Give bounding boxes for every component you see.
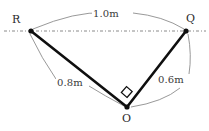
dimension-arc-RQ-right — [133, 13, 184, 29]
segment-RO — [31, 31, 127, 107]
vertex-dot-R — [28, 28, 33, 33]
geometry-figure: R Q O 1.0m 0.8m 0.6m — [0, 0, 209, 131]
figure-canvas — [0, 0, 209, 131]
dimension-arc-QO-upper — [188, 34, 190, 74]
dimension-label-RQ: 1.0m — [92, 9, 120, 19]
vertex-dot-Q — [183, 28, 188, 33]
dimension-label-RO: 0.8m — [56, 78, 84, 88]
dimension-arc-RO-lower — [89, 86, 124, 106]
right-angle-marker — [121, 87, 132, 98]
dimension-label-QO: 0.6m — [157, 75, 185, 85]
vertex-label-Q: Q — [186, 13, 195, 24]
vertex-label-R: R — [12, 14, 20, 25]
vertex-dot-O — [124, 104, 129, 109]
vertex-label-O: O — [122, 113, 131, 124]
segment-QO — [127, 31, 186, 107]
